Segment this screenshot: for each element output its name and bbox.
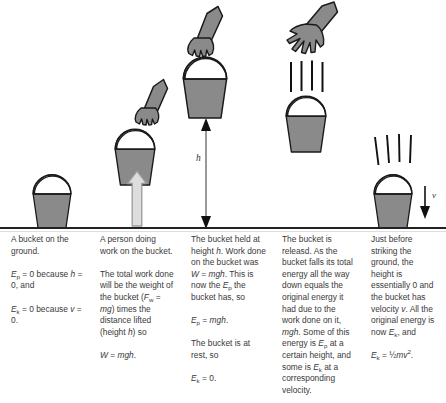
column-person-doing-work: A person doing work on the bucket. The t… <box>92 234 183 362</box>
column-bucket-on-ground: A bucket on the ground. Ep = 0 because h… <box>0 234 92 327</box>
motion-lines-icon <box>375 134 411 165</box>
caption-paragraph: The total work done will be the weight o… <box>100 269 175 339</box>
column-just-before-striking: Just before striking the ground, the hei… <box>363 234 446 362</box>
caption-paragraph: Ek = 0 because v = 0. <box>11 304 84 327</box>
column-bucket-released: The bucket is releasd. As the bucket fal… <box>274 234 363 396</box>
up-arrow-icon <box>128 171 147 226</box>
caption-paragraph: Ep = 0 because h = 0, and <box>11 269 84 292</box>
panel-bucket-held-at-height: h <box>183 7 226 230</box>
column-bucket-held-at-height: The bucket held at height h. Work done o… <box>183 234 274 385</box>
caption-paragraph: A person doing work on the bucket. <box>100 234 175 257</box>
bucket-icon <box>374 175 412 228</box>
caption-paragraph: The bucket is releasd. As the bucket fal… <box>282 234 355 396</box>
caption-paragraph: Ek = ½mv2. <box>371 350 438 362</box>
velocity-label: v <box>432 190 436 200</box>
caption-paragraph: The bucket is at rest, so <box>191 338 266 361</box>
bucket-icon <box>183 57 226 118</box>
open-hand-icon <box>287 24 324 54</box>
panel-person-lifting <box>115 80 167 227</box>
height-arrow-icon <box>201 118 211 229</box>
velocity-arrow-icon <box>420 186 430 219</box>
caption-paragraph: A bucket on the ground. <box>11 234 84 257</box>
caption-paragraph: Ep = mgh. <box>191 315 266 327</box>
hand-gripping-icon <box>135 108 159 125</box>
motion-lines-icon <box>291 61 323 93</box>
panel-bucket-striking-ground: v <box>374 134 436 228</box>
caption-paragraph: Just before striking the ground, the hei… <box>371 234 438 338</box>
panel-bucket-released <box>286 2 337 152</box>
panel-bucket-on-ground <box>33 175 71 228</box>
illustration-area: h <box>0 0 446 232</box>
caption-columns: A bucket on the ground. Ep = 0 because h… <box>0 234 446 403</box>
height-label: h <box>196 153 201 163</box>
energy-diagram-page: h <box>0 0 446 403</box>
bucket-icon <box>33 175 71 228</box>
bucket-icon <box>286 96 326 152</box>
hand-gripping-icon <box>188 38 214 57</box>
caption-paragraph: The bucket held at height h. Work done o… <box>191 234 266 304</box>
illustration-svg: h <box>0 0 446 232</box>
caption-paragraph: Ek = 0. <box>191 373 266 385</box>
caption-paragraph: W = mgh. <box>100 350 175 362</box>
